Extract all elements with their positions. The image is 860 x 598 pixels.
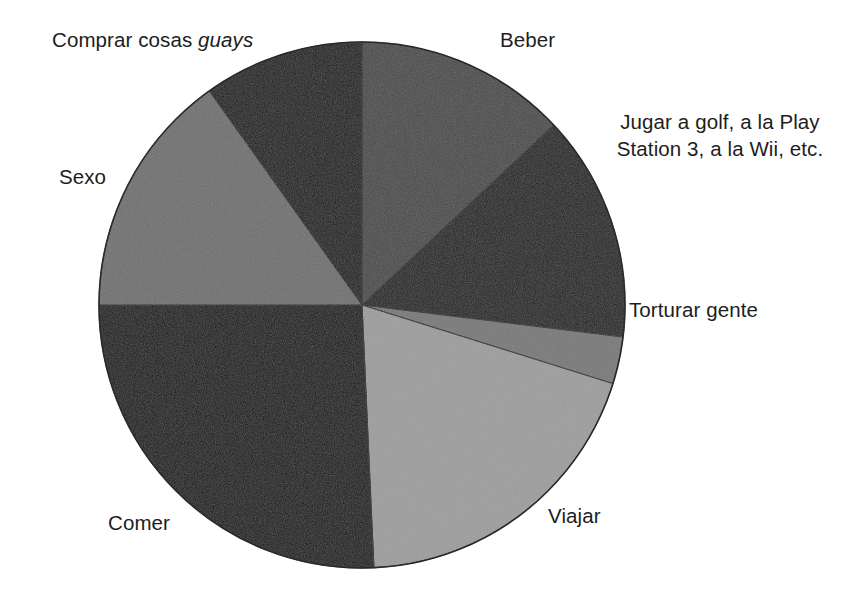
pie-slice-label-jugar-line1: Jugar a golf, a la Play — [620, 110, 819, 133]
pie-slice-label-comprar-cosas-guays: Comprar cosas guays — [52, 26, 253, 53]
pie-slice-label-viajar: Viajar — [548, 502, 601, 529]
pie-slice-label-jugar: Jugar a golf, a la PlayStation 3, a la W… — [595, 108, 845, 162]
pie-slice-label-sexo: Sexo — [59, 163, 106, 190]
pie-slice-label-comer: Comer — [108, 509, 170, 536]
pie-slice-label-comprar-emphasis: guays — [198, 28, 253, 51]
pie-slice-label-beber: Beber — [500, 26, 555, 53]
pie-chart-figure: Comprar cosas guays Beber Jugar a golf, … — [0, 0, 860, 598]
pie-slice-label-torturar-gente: Torturar gente — [629, 296, 758, 323]
pie-slice-label-comprar-prefix: Comprar cosas — [52, 28, 198, 51]
pie-slice-label-jugar-line2: Station 3, a la Wii, etc. — [617, 137, 823, 160]
